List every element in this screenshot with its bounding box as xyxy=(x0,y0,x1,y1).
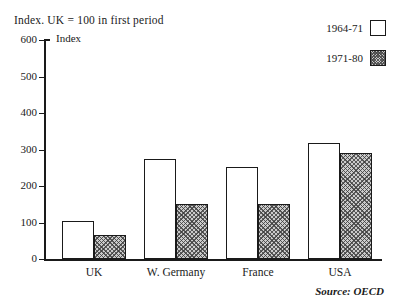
y-axis-tick-label: 100 xyxy=(21,216,38,228)
y-axis-label: Index xyxy=(56,32,81,44)
bar-france-1964-71 xyxy=(226,167,258,259)
bar-usa-1971-80 xyxy=(340,153,372,259)
bar-w-germany-1971-80 xyxy=(176,204,208,259)
bar-france-1971-80 xyxy=(258,204,290,259)
y-axis-tick-mark xyxy=(39,186,44,187)
legend-label-period-1: 1964-71 xyxy=(326,22,363,34)
y-axis-tick-mark xyxy=(39,40,44,41)
y-axis-tick-mark xyxy=(39,77,44,78)
y-axis-tick-mark xyxy=(39,223,44,224)
y-axis-tick-label: 400 xyxy=(21,106,38,118)
y-axis-tick-mark xyxy=(39,259,44,260)
bar-w-germany-1964-71 xyxy=(144,159,176,259)
x-axis-line xyxy=(44,259,382,261)
x-axis-label-usa: USA xyxy=(328,266,351,278)
y-axis-tick-label: 200 xyxy=(21,179,38,191)
bar-uk-1964-71 xyxy=(62,221,94,259)
y-axis-tick-mark xyxy=(39,113,44,114)
bar-chart-figure: Index. UK = 100 in first period 1964-71 … xyxy=(0,0,394,307)
y-axis-tick-label: 0 xyxy=(32,252,38,264)
chart-title: Index. UK = 100 in first period xyxy=(14,14,164,26)
x-axis-label-france: France xyxy=(242,266,273,278)
y-axis-line xyxy=(44,40,46,259)
legend-item-period-1: 1964-71 xyxy=(278,20,386,36)
bar-usa-1964-71 xyxy=(308,143,340,259)
legend-swatch-period-1 xyxy=(370,20,386,36)
y-axis-top-cap xyxy=(44,39,50,41)
source-note: Source: OECD xyxy=(315,285,384,297)
plot-area: Index 0100200300400500600 UKW. GermanyFr… xyxy=(44,40,382,259)
y-axis-tick-label: 300 xyxy=(21,143,38,155)
bar-uk-1971-80 xyxy=(94,235,126,259)
x-axis-label-uk: UK xyxy=(86,266,103,278)
y-axis-tick-label: 500 xyxy=(21,70,38,82)
y-axis-tick-mark xyxy=(39,150,44,151)
y-axis-tick-label: 600 xyxy=(21,33,38,45)
x-axis-label-w-germany: W. Germany xyxy=(147,266,205,278)
